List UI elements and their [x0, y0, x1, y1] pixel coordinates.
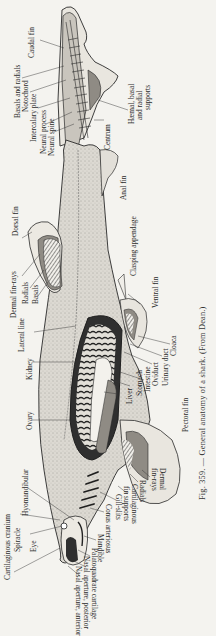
label-nasal-aperture-anterior: Nasal aperture, anterior — [74, 566, 82, 636]
label-clasping-appendage: Clasping appendage — [130, 216, 138, 276]
label-dermal-fin-rays: Dermal fin-rays — [10, 271, 18, 318]
label-palatoquadrate-cartilage: Palatoquadrate cartilage — [90, 548, 98, 619]
label-radials-pectoral: Radials — [138, 480, 146, 502]
label-cloaca: Cloaca — [170, 335, 178, 356]
label-hyomandibular: Hyomandibular — [22, 470, 30, 516]
label-caudal-fin: Caudal fin — [28, 27, 36, 58]
figure-caption: Fig. 359. — General anatomy of a shark. … — [198, 306, 207, 500]
label-liver: Liver — [126, 388, 134, 404]
label-cartilaginous-cranium: Cartilaginous cranium — [4, 514, 12, 580]
label-spiracle: Spiracle — [14, 528, 22, 552]
label-eye: Eye — [30, 541, 38, 553]
anal-fin — [100, 150, 118, 196]
label-radials: Radials — [22, 282, 30, 304]
label-dorsal-fin: Dorsal fin — [12, 206, 20, 236]
label-neural-spine: Neural spine — [48, 118, 56, 156]
label-oviduct: Oviduct — [152, 362, 160, 386]
label-anal-fin: Anal fin — [120, 176, 128, 200]
label-dermal-fin-rays-pectoral-line2: fin-rays — [150, 468, 158, 491]
label-intercalary-plate: Intercalary plate — [30, 94, 38, 142]
label-conus-arteriosus: Conus arteriosus — [104, 504, 112, 553]
label-centrum: Centrum — [104, 124, 112, 150]
label-stomach: Stomach — [136, 370, 144, 396]
label-nasal-aperture-posterior: Nasal aperture, posterior — [82, 556, 90, 629]
label-basals: Basals — [32, 285, 40, 304]
label-dermal-fin-rays-pectoral: Dermal — [158, 468, 166, 490]
label-ovary: Ovary — [26, 412, 34, 430]
label-cartilaginous-fin-supports: Cartilaginous — [130, 484, 138, 524]
label-lateral-line: Lateral line — [18, 318, 26, 352]
label-pectoral-fin: Pectoral fin — [182, 398, 190, 432]
label-ventral-fin: Ventral fin — [152, 277, 160, 308]
label-haemal-supports-line3: supports — [144, 85, 152, 110]
label-urinary-duct: Urinary duct — [162, 348, 170, 386]
label-intestine: Intestine — [144, 367, 152, 392]
label-cartilaginous-fin-supports-line2: fin supports — [122, 486, 130, 521]
label-gill-slits: Gill-slits — [114, 494, 122, 520]
dorsal-fin — [28, 222, 62, 293]
label-kidney: Kidney — [26, 358, 34, 380]
